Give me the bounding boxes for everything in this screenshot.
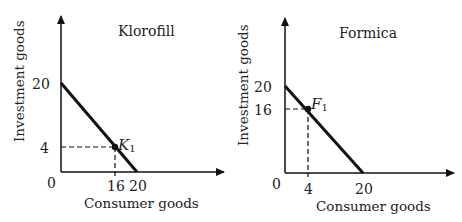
y-tick-4: 4 (40, 140, 49, 156)
point-label-f1: F1 (310, 95, 328, 113)
formica-chart: Formica 20 16 0 4 20 Consumer goods Inve… (235, 18, 454, 214)
point-label-k1: K1 (117, 136, 136, 154)
y-tick-20: 20 (254, 79, 272, 95)
charts-canvas: Klorofill 20 4 0 16 20 Consumer goods In… (0, 0, 462, 222)
x-tick-4: 4 (304, 181, 313, 197)
y-axis-title: Investment goods (235, 24, 251, 146)
x-tick-16: 16 (107, 178, 125, 194)
y-axis-title: Investment goods (11, 20, 27, 142)
y-tick-16: 16 (254, 102, 272, 118)
y-tick-20: 20 (32, 76, 50, 92)
origin-label: 0 (272, 176, 281, 192)
x-tick-20: 20 (129, 178, 147, 194)
klorofill-chart: Klorofill 20 4 0 16 20 Consumer goods In… (11, 16, 224, 211)
x-axis-title: Consumer goods (316, 198, 431, 214)
ppf-line (285, 86, 363, 173)
x-tick-20: 20 (355, 181, 373, 197)
ppf-line (61, 83, 137, 172)
x-axis-title: Consumer goods (84, 195, 199, 211)
chart-title: Formica (339, 25, 397, 41)
chart-title: Klorofill (118, 23, 175, 39)
origin-label: 0 (47, 175, 56, 191)
